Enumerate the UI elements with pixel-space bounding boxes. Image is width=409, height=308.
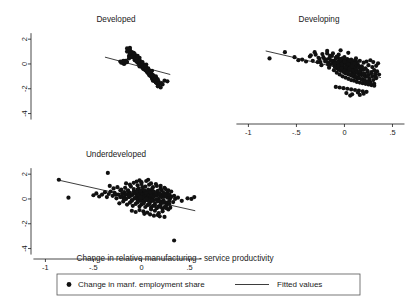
scatter-point: [292, 55, 296, 59]
scatter-point: [342, 55, 346, 59]
scatter-point: [369, 70, 373, 74]
scatter-point: [159, 85, 163, 89]
scatter-point: [172, 194, 176, 198]
y-tick-label: -2: [21, 85, 30, 92]
scatter-point: [149, 181, 153, 185]
scatter-point: [192, 195, 196, 199]
scatter-point: [172, 238, 176, 242]
scatter-point: [147, 202, 151, 206]
scatter-point: [114, 196, 118, 200]
panel-title-developing: Developing: [299, 15, 340, 24]
scatter-point: [164, 206, 168, 210]
scatter-point: [113, 193, 117, 197]
scatter-point: [150, 198, 154, 202]
scatter-point: [325, 49, 329, 53]
scatter-point: [354, 56, 358, 60]
scatter-point: [376, 61, 380, 65]
scatter-point: [339, 57, 343, 61]
scatter-point: [331, 51, 335, 55]
scatter-point: [318, 60, 322, 64]
scatter-point: [342, 59, 346, 63]
scatter-point: [160, 209, 164, 213]
scatter-point: [128, 183, 132, 187]
scatter-point: [156, 77, 160, 81]
scatter-point: [134, 210, 138, 214]
legend-label-points: Change in manf. employment share: [78, 280, 205, 289]
y-tick-label: -4: [21, 110, 30, 117]
scatter-point: [142, 212, 146, 216]
scatter-point: [339, 48, 343, 52]
scatter-point: [119, 188, 123, 192]
scatter-point: [334, 85, 338, 89]
scatter-point: [300, 58, 304, 62]
scatter-point: [146, 178, 150, 182]
scatter-point: [309, 53, 313, 57]
scatter-point: [94, 191, 98, 195]
scatter-point: [352, 61, 356, 65]
scatter-point: [377, 72, 381, 76]
scatter-point: [358, 93, 362, 97]
scatter-point: [117, 201, 121, 205]
scatter-point: [341, 86, 345, 90]
scatter-point: [165, 79, 169, 83]
x-tick-label: -.5: [89, 263, 98, 272]
scatter-point: [358, 59, 362, 63]
scatter-point: [283, 50, 287, 54]
scatter-point: [337, 53, 341, 57]
scatter-point: [344, 91, 348, 95]
scatter-point: [108, 184, 112, 188]
scatter-point: [322, 57, 326, 61]
scatter-point: [296, 58, 300, 62]
scatter-point: [167, 202, 171, 206]
legend-label-fitted: Fitted values: [277, 280, 322, 289]
scatter-point: [152, 214, 156, 218]
scatter-point: [176, 196, 180, 200]
scatter-point: [149, 69, 153, 73]
scatter-point: [135, 58, 139, 62]
scatter-point: [348, 93, 352, 97]
y-tick-label: 0: [21, 62, 30, 66]
scatter-point: [267, 56, 271, 60]
scatter-point: [372, 84, 376, 88]
scatter-point: [138, 196, 142, 200]
scatter-point: [126, 188, 130, 192]
scatter-point: [127, 194, 131, 198]
scatter-point: [333, 61, 337, 65]
scatter-point: [137, 178, 141, 182]
scatter-point: [57, 178, 61, 182]
scatter-point: [141, 201, 145, 205]
scatter-point: [124, 181, 128, 185]
scatter-point: [345, 87, 349, 91]
scatter-point: [136, 183, 140, 187]
scatter-point: [138, 189, 142, 193]
scatter-point: [144, 197, 148, 201]
scatter-point: [159, 205, 163, 209]
x-tick-label: 0: [139, 263, 143, 272]
scatter-point: [168, 206, 172, 210]
y-tick-label: -4: [21, 245, 30, 252]
scatter-point: [159, 184, 163, 188]
scatter-point: [137, 208, 141, 212]
scatter-point: [338, 85, 342, 89]
scatter-point: [370, 74, 374, 78]
scatter-point: [327, 66, 331, 70]
plot-canvas: Developed20-2-4Developing-1-.50.5Underde…: [0, 0, 409, 308]
scatter-point: [346, 51, 350, 55]
x-tick-label: .5: [389, 128, 395, 137]
scatter-point: [320, 52, 324, 56]
scatter-point: [311, 59, 315, 63]
scatter-point: [112, 186, 116, 190]
y-tick-label: 2: [21, 172, 30, 176]
scatter-point: [143, 184, 147, 188]
scatter-point: [118, 195, 122, 199]
scatter-point: [153, 209, 157, 213]
scatter-point: [153, 204, 157, 208]
scatter-point: [366, 63, 370, 67]
scatter-point: [329, 59, 333, 63]
x-axis-title: Change in relative manufacturing - servi…: [76, 254, 274, 263]
y-tick-label: 2: [21, 37, 30, 41]
scatter-point: [161, 201, 165, 205]
scatter-point: [136, 200, 140, 204]
legend-marker-dot: [67, 282, 72, 287]
x-tick-label: 0: [342, 128, 346, 137]
